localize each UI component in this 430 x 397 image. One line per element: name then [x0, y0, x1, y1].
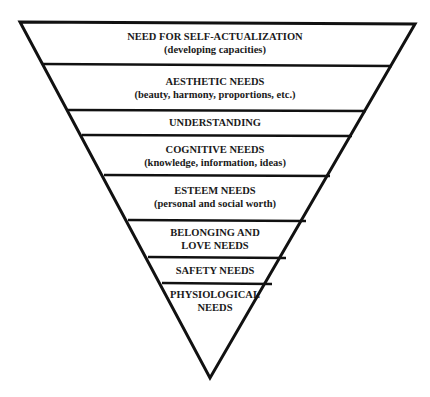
level-name: SAFETY NEEDS — [0, 264, 430, 277]
level-cognitive: COGNITIVE NEEDS (knowledge, information,… — [0, 143, 430, 169]
level-detail: (personal and social worth) — [0, 197, 430, 210]
level-detail: (beauty, harmony, proportions, etc.) — [0, 88, 430, 101]
level-name: NEED FOR SELF-ACTUALIZATION — [0, 30, 430, 43]
level-name: PHYSIOLOGICAL — [0, 288, 430, 301]
level-physiological: PHYSIOLOGICAL NEEDS — [0, 288, 430, 314]
divider — [42, 64, 392, 66]
level-esteem: ESTEEM NEEDS (personal and social worth) — [0, 184, 430, 210]
level-understanding: UNDERSTANDING — [0, 116, 430, 129]
level-safety: SAFETY NEEDS — [0, 264, 430, 277]
level-aesthetic: AESTHETIC NEEDS (beauty, harmony, propor… — [0, 75, 430, 101]
level-belonging: BELONGING AND LOVE NEEDS — [0, 226, 430, 252]
level-name: UNDERSTANDING — [0, 116, 430, 129]
level-detail: (knowledge, information, ideas) — [0, 156, 430, 169]
level-self-actualization: NEED FOR SELF-ACTUALIZATION (developing … — [0, 30, 430, 56]
level-name: ESTEEM NEEDS — [0, 184, 430, 197]
level-name: AESTHETIC NEEDS — [0, 75, 430, 88]
level-detail: NEEDS — [0, 301, 430, 314]
level-detail: (developing capacities) — [0, 43, 430, 56]
level-detail: LOVE NEEDS — [0, 239, 430, 252]
level-name: COGNITIVE NEEDS — [0, 143, 430, 156]
level-name: BELONGING AND — [0, 226, 430, 239]
